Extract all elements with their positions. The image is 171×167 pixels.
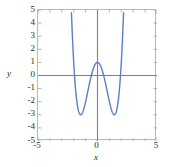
plot-area	[37, 9, 156, 140]
y-tick-label: 4	[21, 18, 35, 27]
x-tick-label: 5	[154, 141, 159, 150]
plot-canvas	[38, 10, 157, 141]
x-axis-title: x	[94, 153, 98, 162]
y-tick-label: 0	[21, 70, 35, 79]
y-axis-title: y	[7, 69, 11, 78]
x-tick-label: 0	[94, 141, 99, 150]
x-tick-label: -5	[33, 141, 41, 150]
y-tick-label: -4	[21, 122, 35, 131]
y-tick-label: 5	[21, 5, 35, 14]
y-tick-label: 1	[21, 57, 35, 66]
y-tick-label: 2	[21, 44, 35, 53]
y-axis-tick-labels: -5-4-3-2-1012345	[19, 9, 35, 140]
y-tick-label: 3	[21, 31, 35, 40]
axis-lines-group	[38, 10, 157, 141]
figure: -5-4-3-2-1012345 y -505 x	[0, 0, 171, 167]
y-tick-label: -3	[21, 109, 35, 118]
y-tick-label: -1	[21, 83, 35, 92]
y-tick-label: -2	[21, 96, 35, 105]
